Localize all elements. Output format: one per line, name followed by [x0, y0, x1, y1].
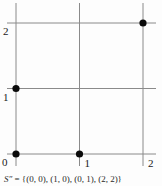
set-name-label: S″	[4, 174, 12, 184]
data-point	[12, 150, 19, 157]
x-tick-label: 1	[85, 157, 91, 169]
data-point	[76, 150, 83, 157]
data-point	[12, 85, 19, 92]
y-tick-label: 1	[3, 91, 9, 103]
y-tick-label: 2	[3, 25, 9, 37]
x-tick-label: 2	[148, 157, 154, 169]
coordinate-grid-plot: 12120	[0, 0, 162, 186]
set-definition-text: = {(0, 0), (1, 0), (0, 1), (2, 2)}	[12, 174, 122, 184]
data-point	[139, 19, 146, 26]
figure-caption: S″ = {(0, 0), (1, 0), (0, 1), (2, 2)}	[4, 174, 162, 185]
relation-graph-figure: 12120 S″ = {(0, 0), (1, 0), (0, 1), (2, …	[0, 0, 162, 186]
origin-tick-label: 0	[2, 156, 8, 168]
